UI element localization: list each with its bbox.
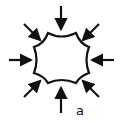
arrow-bottom-left bbox=[24, 81, 40, 97]
arrow-top-left bbox=[24, 24, 40, 40]
concave-shape bbox=[34, 33, 89, 83]
diagram-label: a bbox=[76, 104, 84, 117]
arrow-top-right bbox=[83, 24, 99, 40]
arrow-bottom-right bbox=[83, 81, 99, 97]
diagram-canvas bbox=[0, 0, 123, 122]
